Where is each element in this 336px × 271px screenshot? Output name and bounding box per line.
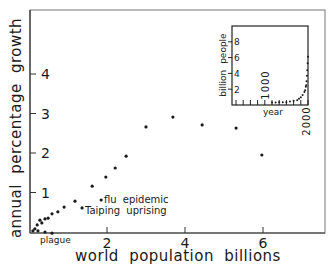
data-point — [234, 127, 237, 130]
chart-svg: 1234 246 world population billions annua… — [0, 0, 336, 271]
inset-data-point — [302, 94, 304, 96]
inset-x-tick-2000: 2000 — [301, 106, 312, 135]
data-point — [125, 155, 128, 158]
inset-y-axis-label: billion people — [218, 33, 228, 97]
y-tick-label: 4 — [41, 66, 50, 82]
data-point — [104, 175, 107, 178]
inset-y-tick-label: 8 — [234, 37, 240, 47]
data-point — [56, 210, 59, 213]
data-point — [201, 123, 204, 126]
data-point — [33, 227, 36, 230]
annotation-flu-epidemic: flu epidemic — [104, 194, 169, 205]
inset-x-tick-1000: 1000 — [260, 70, 271, 99]
data-point — [36, 229, 39, 232]
inset-data-point — [306, 75, 308, 77]
inset-x-axis-label: year — [263, 107, 283, 117]
data-point — [63, 206, 66, 209]
data-point — [100, 198, 103, 201]
inset-chart: 2468 billion people year 1000 2000 — [218, 26, 312, 136]
x-axis-label: world population billions — [75, 247, 281, 265]
data-point — [43, 230, 46, 233]
inset-data-point — [282, 101, 284, 103]
inset-data-point — [305, 84, 307, 86]
data-point — [91, 185, 94, 188]
inset-y-tick-label: 6 — [234, 53, 240, 63]
y-tick-label: 3 — [41, 106, 50, 122]
inset-data-point — [304, 89, 306, 91]
inset-data-point — [271, 102, 273, 104]
chart: 1234 246 world population billions annua… — [0, 0, 336, 271]
y-axis-ticks: 1234 — [30, 66, 50, 201]
y-tick-label: 2 — [41, 145, 50, 161]
inset-data-point — [278, 101, 280, 103]
data-point — [36, 223, 39, 226]
inset-data-point — [306, 69, 308, 71]
annotation-plague: plague — [40, 235, 71, 245]
inset-data-point — [289, 101, 291, 103]
inset-y-tick-label: 2 — [234, 85, 240, 95]
data-point — [38, 219, 41, 222]
y-axis-label: annual percentage growth — [7, 18, 25, 238]
inset-data-point — [298, 98, 300, 100]
inset-data-point — [307, 56, 309, 58]
annotation-taiping-uprising: Taiping uprising — [84, 205, 167, 216]
data-point — [171, 115, 174, 118]
inset-data-point — [293, 100, 295, 102]
data-point — [43, 217, 46, 220]
data-point — [144, 125, 147, 128]
data-point — [47, 217, 50, 220]
data-point — [73, 200, 76, 203]
inset-data-point — [307, 62, 309, 64]
data-point — [40, 221, 43, 224]
scatter-points — [31, 115, 263, 234]
y-tick-label: 1 — [41, 185, 50, 201]
inset-y-tick-label: 4 — [234, 69, 240, 79]
data-point — [50, 212, 53, 215]
data-point — [80, 206, 83, 209]
data-point — [260, 153, 263, 156]
data-point — [114, 166, 117, 169]
inset-data-point — [306, 80, 308, 82]
inset-data-point — [275, 101, 277, 103]
inset-data-point — [300, 96, 302, 98]
inset-data-point — [285, 101, 287, 103]
inset-data-point — [296, 99, 298, 101]
